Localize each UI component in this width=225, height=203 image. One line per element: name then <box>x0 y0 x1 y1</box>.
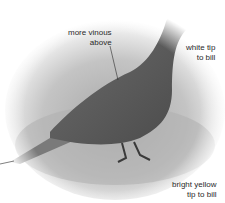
annotation-line: tip to bill <box>172 190 216 200</box>
annotation-line: to bill <box>186 53 215 63</box>
annotation-bill-yellow: bright yellow tip to bill <box>172 180 216 200</box>
annotation-line: white tip <box>186 43 215 53</box>
annotation-line: above <box>68 38 112 48</box>
annotation-bill-tip: white tip to bill <box>186 43 215 63</box>
bird-photo <box>0 0 225 203</box>
annotation-upperparts: more vinous above <box>68 28 112 48</box>
annotation-line: more vinous <box>68 28 112 38</box>
annotation-line: bright yellow <box>172 180 216 190</box>
